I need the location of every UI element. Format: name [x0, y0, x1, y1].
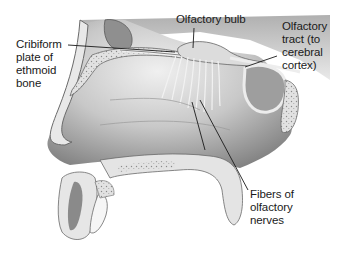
olfactory-anatomy-diagram: Cribiform plate of ethmoid bone Olfactor…: [0, 0, 340, 257]
label-cribriform-plate: Cribiform plate of ethmoid bone: [16, 38, 62, 90]
label-olfactory-nerve-fibers: Fibers of olfactory nerves: [250, 188, 294, 227]
label-olfactory-bulb: Olfactory bulb: [176, 13, 246, 26]
sphenoid-sinus: [244, 65, 286, 112]
label-olfactory-tract: Olfactory tract (to cerebral cortex): [282, 20, 327, 72]
